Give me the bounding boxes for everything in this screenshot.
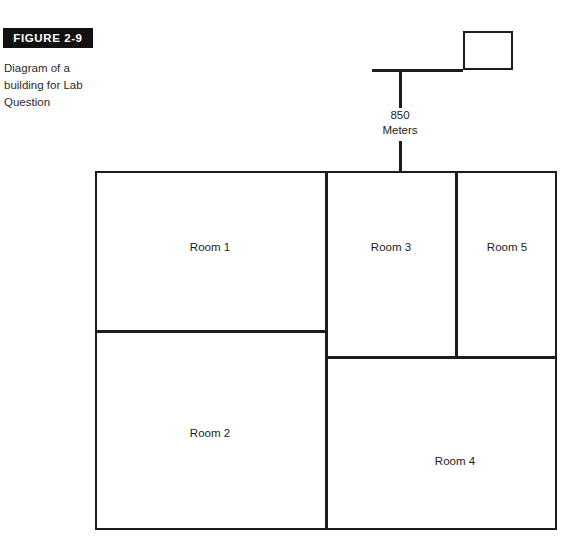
wall-vertical-main bbox=[325, 171, 328, 530]
antenna-mast-upper-segment bbox=[399, 70, 402, 108]
room-label-1: Room 1 bbox=[140, 241, 280, 253]
antenna-box-icon bbox=[463, 31, 513, 70]
figure-number-badge: FIGURE 2-9 bbox=[3, 28, 93, 48]
room-label-3: Room 3 bbox=[326, 241, 456, 253]
wall-between-room3-room5 bbox=[455, 171, 458, 359]
figure-diagram: FIGURE 2-9 Diagram of a building for Lab… bbox=[0, 0, 581, 556]
antenna-crossbar bbox=[372, 69, 463, 72]
room-label-4: Room 4 bbox=[390, 455, 520, 467]
antenna-mast-lower-segment bbox=[399, 141, 402, 172]
room-label-2: Room 2 bbox=[140, 427, 280, 439]
room-label-5: Room 5 bbox=[457, 241, 557, 253]
distance-label: 850 Meters bbox=[360, 108, 440, 138]
figure-caption: Diagram of a building for Lab Question bbox=[4, 60, 100, 111]
wall-between-room35-room4 bbox=[325, 356, 557, 359]
distance-unit: Meters bbox=[360, 123, 440, 138]
wall-between-room1-room2 bbox=[95, 330, 327, 333]
distance-value: 850 bbox=[360, 108, 440, 123]
